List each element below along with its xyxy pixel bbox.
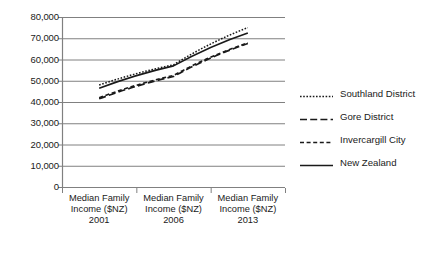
y-axis-tick-label: 80,000	[3, 12, 59, 22]
legend-line-swatch-icon	[300, 134, 333, 146]
y-axis-tick-labels: 010,00020,00030,00040,00050,00060,00070,…	[0, 0, 59, 257]
series-line	[99, 43, 248, 98]
x-axis-tick-label-line: 2006	[136, 215, 210, 226]
plot-area: 010,00020,00030,00040,00050,00060,00070,…	[0, 0, 300, 257]
series-line	[99, 33, 248, 88]
x-axis-tick-labels: Median FamilyIncome ($NZ)2001Median Fami…	[62, 193, 285, 253]
legend-item-label: New Zealand	[340, 157, 397, 168]
chart-legend: Southland DistrictGore DistrictInvercarg…	[300, 82, 439, 174]
legend-item-label: Invercargill City	[340, 134, 406, 145]
x-axis-tick-label-line: Income ($NZ)	[62, 204, 136, 215]
x-axis-tick-label-line: 2001	[62, 215, 136, 226]
y-axis-tick-label: 40,000	[3, 97, 59, 107]
x-axis-tick-label-line: Median Family	[211, 193, 285, 204]
legend-line-swatch-icon	[300, 111, 333, 123]
y-axis-tick-label: 0	[3, 182, 59, 192]
y-axis-tick-label: 70,000	[3, 33, 59, 43]
x-axis-tick-label: Median FamilyIncome ($NZ)2013	[211, 193, 285, 253]
x-axis-tick-label-line: Income ($NZ)	[211, 204, 285, 215]
line-chart: 010,00020,00030,00040,00050,00060,00070,…	[0, 0, 439, 257]
x-axis-tick-label: Median FamilyIncome ($NZ)2001	[62, 193, 136, 253]
x-axis-tick-label-line: Income ($NZ)	[136, 204, 210, 215]
x-axis-tick-label: Median FamilyIncome ($NZ)2006	[136, 193, 210, 253]
gridlines	[62, 18, 285, 188]
y-axis-tick-label: 30,000	[3, 118, 59, 128]
legend-line-swatch-icon	[300, 88, 333, 100]
legend-item-label: Southland District	[340, 88, 415, 99]
legend-item-label: Gore District	[340, 111, 393, 122]
x-axis-tick-label-line: Median Family	[62, 193, 136, 204]
y-axis-tick-label: 10,000	[3, 161, 59, 171]
x-axis-tick-label-line: Median Family	[136, 193, 210, 204]
legend-item-gore-district[interactable]: Gore District	[300, 105, 439, 128]
legend-item-new-zealand[interactable]: New Zealand	[300, 151, 439, 174]
legend-item-southland-district[interactable]: Southland District	[300, 82, 439, 105]
x-axis-tick-label-line: 2013	[211, 215, 285, 226]
legend-line-swatch-icon	[300, 157, 333, 169]
legend-item-invercargill-city[interactable]: Invercargill City	[300, 128, 439, 151]
y-axis-tick-label: 60,000	[3, 55, 59, 65]
y-axis-tick-label: 20,000	[3, 140, 59, 150]
y-axis-tick-label: 50,000	[3, 76, 59, 86]
